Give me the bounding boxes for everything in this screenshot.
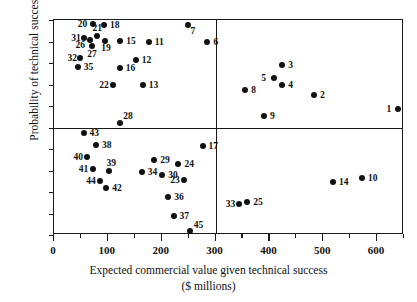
data-point-label: 35: [84, 63, 94, 73]
data-point: [236, 201, 242, 207]
x-axis-tick-minor: [295, 234, 296, 238]
x-axis-title-line1: Expected commercial value given technica…: [90, 264, 328, 276]
data-point: [330, 179, 336, 185]
data-point-label: 38: [102, 141, 112, 151]
data-point-label: 32: [67, 54, 77, 64]
data-point-label: 11: [155, 38, 164, 48]
data-point-label: 17: [209, 142, 219, 152]
data-point-label: 9: [270, 112, 275, 122]
x-axis-tick-label: 100: [99, 245, 116, 256]
data-point: [279, 82, 285, 88]
y-axis-tick: [49, 171, 54, 172]
data-point-label: 14: [339, 178, 349, 188]
x-axis-tick: [161, 234, 162, 241]
data-point: [93, 142, 99, 148]
y-axis-tick: [49, 128, 54, 129]
data-point-label: 44: [86, 177, 96, 187]
data-point-label: 39: [106, 159, 116, 169]
data-point-label: 16: [126, 64, 136, 74]
x-axis-tick-minor: [241, 234, 242, 238]
x-axis-tick-minor: [403, 234, 404, 238]
x-axis-tick: [215, 234, 216, 241]
y-axis-tick: [49, 106, 54, 107]
data-point: [261, 113, 267, 119]
data-point: [244, 199, 250, 205]
data-point: [75, 64, 81, 70]
data-point-label: 41: [79, 165, 89, 175]
x-axis-tick-label: 0: [50, 245, 56, 256]
data-point-label: 28: [123, 112, 133, 122]
quadrant-divider-vertical: [216, 20, 217, 233]
data-point: [204, 39, 210, 45]
y-axis-title: Probability of technical success: [28, 0, 40, 163]
plot-area: 1234567891011121314151617181920212223242…: [53, 19, 403, 234]
data-point-label: 2: [320, 91, 325, 101]
data-point: [151, 157, 157, 163]
x-axis-tick-minor: [349, 234, 350, 238]
data-point-label: 33: [226, 200, 236, 210]
data-point-label: 3: [288, 61, 293, 71]
data-point: [279, 62, 285, 68]
data-point-label: 20: [78, 20, 88, 30]
data-point-label: 8: [251, 86, 256, 96]
data-point: [175, 161, 181, 167]
y-axis-tick: [49, 214, 54, 215]
y-axis-tick: [49, 20, 54, 21]
data-point: [159, 172, 165, 178]
data-point: [242, 87, 248, 93]
x-axis-tick: [53, 234, 54, 241]
data-point: [117, 65, 123, 71]
x-axis-tick-label: 500: [314, 245, 331, 256]
data-point-label: 31: [71, 34, 81, 44]
data-point-label: 1: [387, 105, 392, 115]
x-axis-tick-minor: [188, 234, 189, 238]
x-axis-tick-label: 200: [152, 245, 169, 256]
quadrant-divider-horizontal: [54, 128, 402, 129]
data-point-label: 4: [288, 81, 293, 91]
data-point: [81, 130, 87, 136]
data-point-label: 12: [142, 56, 152, 66]
data-point-label: 29: [160, 156, 170, 166]
data-point-label: 18: [110, 21, 120, 31]
data-point: [89, 43, 95, 49]
data-point-label: 13: [149, 81, 159, 91]
data-point: [271, 75, 277, 81]
data-point: [165, 194, 171, 200]
data-point: [311, 92, 317, 98]
data-point: [140, 82, 146, 88]
data-point-label: 6: [213, 38, 218, 48]
y-axis-tick: [49, 42, 54, 43]
data-point-label: 34: [148, 168, 158, 178]
data-point: [139, 169, 145, 175]
data-point-label: 42: [112, 184, 122, 194]
data-point: [84, 154, 90, 160]
scatter-chart: Probability of technical success 0.1.2.3…: [0, 0, 417, 302]
data-point: [146, 39, 152, 45]
data-point-label: 21: [93, 24, 103, 34]
data-point: [395, 106, 401, 112]
x-axis-tick-label: 600: [368, 245, 385, 256]
x-axis-tick-minor: [134, 234, 135, 238]
data-point: [90, 166, 96, 172]
data-point-label: 43: [90, 129, 100, 139]
data-point: [117, 38, 123, 44]
x-axis-title: Expected commercial value given technica…: [0, 263, 417, 294]
data-point-label: 22: [99, 81, 109, 91]
data-point-label: 19: [101, 44, 111, 54]
x-axis-tick: [268, 234, 269, 241]
data-point: [77, 55, 83, 61]
data-point: [94, 33, 100, 39]
data-point: [171, 213, 177, 219]
data-point: [103, 185, 109, 191]
data-point-label: 15: [126, 37, 136, 47]
x-axis-tick-label: 400: [260, 245, 277, 256]
data-point: [106, 168, 112, 174]
data-point-label: 37: [180, 212, 190, 222]
x-axis-tick: [376, 234, 377, 241]
data-point: [181, 177, 187, 183]
x-axis-tick-minor: [80, 234, 81, 238]
data-point: [359, 175, 365, 181]
x-axis-tick: [107, 234, 108, 241]
data-point-label: 40: [73, 153, 83, 163]
y-axis-tick: [49, 192, 54, 193]
